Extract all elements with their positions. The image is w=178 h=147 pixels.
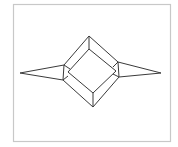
- diagram-canvas: [0, 0, 178, 147]
- bevel-connector-line: [63, 76, 68, 80]
- left-spike: [20, 65, 64, 80]
- beveled-diamond-diagram: [0, 0, 178, 147]
- bevel-connector-line: [113, 62, 118, 67]
- outer-diamond: [63, 36, 119, 107]
- frame-border: [14, 5, 171, 142]
- bevel-connector-line: [64, 65, 70, 69]
- bevel-connectors: [63, 36, 119, 107]
- bevel-connector-line: [113, 74, 119, 77]
- right-spike: [118, 62, 161, 77]
- inner-diamond: [68, 49, 116, 93]
